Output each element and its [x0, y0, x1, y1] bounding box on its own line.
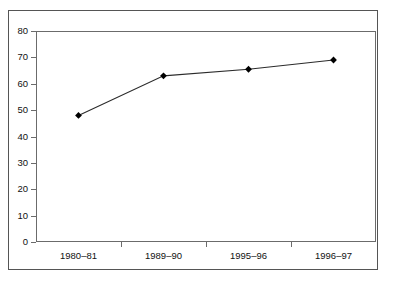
y-axis-tick-label: 80 — [17, 26, 28, 36]
data-point-marker — [75, 112, 82, 119]
y-axis-tick-label: 50 — [17, 105, 28, 115]
y-axis-tick-label: 60 — [17, 79, 28, 89]
y-axis-tick-label: 20 — [17, 185, 28, 195]
plot-area: 01020304050607080 1980–811989–901995–961… — [36, 31, 376, 242]
x-axis-tick-label: 1980–81 — [60, 251, 97, 261]
line-series — [36, 31, 376, 242]
chart-screenshot: 01020304050607080 1980–811989–901995–961… — [0, 0, 419, 281]
x-axis-tick-label: 1995–96 — [230, 251, 267, 261]
y-axis-tick-label: 10 — [17, 211, 28, 221]
series-line — [79, 60, 334, 115]
data-point-marker — [330, 57, 337, 64]
data-point-marker — [160, 72, 167, 79]
data-point-marker — [245, 66, 252, 73]
x-axis-tick-mark — [121, 242, 122, 247]
y-axis-tick-mark — [31, 242, 36, 243]
y-axis-tick-label: 70 — [17, 53, 28, 63]
x-axis-tick-mark — [291, 242, 292, 247]
y-axis-tick-label: 40 — [17, 132, 28, 142]
x-axis-tick-label: 1989–90 — [145, 251, 182, 261]
y-axis-tick-label: 30 — [17, 158, 28, 168]
x-axis-tick-label: 1996–97 — [315, 251, 352, 261]
x-axis-tick-mark — [206, 242, 207, 247]
y-axis-tick-label: 0 — [23, 237, 28, 247]
